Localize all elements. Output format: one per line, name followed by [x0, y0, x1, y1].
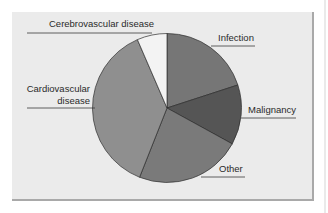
pie-slices — [92, 34, 241, 183]
label-cerebrovascular: Cerebrovascular disease — [49, 18, 154, 29]
label-cardiovascular-line2: disease — [57, 95, 90, 106]
label-infection: Infection — [218, 32, 254, 43]
label-cardiovascular-line1: Cardiovascular — [27, 83, 90, 94]
label-other: Other — [219, 163, 243, 174]
label-malignancy: Malignancy — [248, 104, 296, 115]
pie-chart: Cerebrovascular disease Infection Malign… — [0, 0, 328, 213]
